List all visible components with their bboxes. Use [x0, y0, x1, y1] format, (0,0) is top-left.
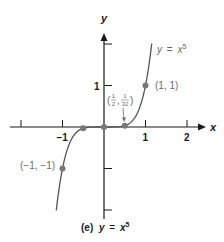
point-label-1-1: (1, 1): [155, 80, 178, 91]
annotation-arrow: [123, 108, 124, 119]
svg-text:,: ,: [117, 95, 120, 106]
x-tick-label: 2: [184, 132, 190, 143]
x-tick-label: 1: [143, 132, 149, 143]
point-label-half: ( 1 2 , 1 32 ): [107, 93, 133, 107]
svg-text:32: 32: [122, 101, 129, 107]
y-axis-arrow-icon: [101, 33, 108, 41]
svg-text:(: (: [107, 95, 111, 106]
data-point: [122, 123, 128, 129]
data-point: [143, 83, 149, 89]
svg-text:): ): [130, 95, 133, 106]
annotation-arrow-icon: [122, 118, 126, 123]
x-tick-label: −1: [57, 132, 69, 143]
data-point: [80, 125, 86, 131]
x-axis-arrow-icon: [198, 124, 206, 131]
y-tick-label: 1: [94, 81, 100, 92]
x-axis-label: x: [209, 121, 217, 133]
svg-text:1: 1: [123, 93, 127, 99]
point-label-neg1-neg1: (−1, −1): [20, 160, 55, 171]
curve-label: y = x5: [156, 43, 186, 55]
svg-text:2: 2: [112, 101, 116, 107]
data-point: [60, 166, 66, 172]
y-axis-label: y: [100, 12, 108, 24]
data-point: [101, 124, 107, 130]
svg-text:1: 1: [112, 93, 116, 99]
chart-caption: (e) y = x5: [81, 221, 130, 233]
x-ticks: −112: [21, 120, 190, 143]
chart: −112 1 x y y = x5 (1, 1) (−1, −1) ( 1 2 …: [0, 0, 224, 242]
